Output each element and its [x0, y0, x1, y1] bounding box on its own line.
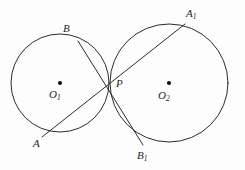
point-label-a1-subscript: 1 [193, 12, 197, 21]
center-label-o2-text: O [158, 89, 166, 101]
center-label-o2: O2 [158, 90, 170, 102]
point-label-a: A [33, 138, 40, 150]
point-label-b1-subscript: 1 [144, 154, 148, 163]
center-label-o1: O1 [49, 89, 61, 101]
point-label-b-text: B [63, 22, 70, 34]
point-label-b1-text: B [137, 149, 144, 161]
center-dot-o2 [167, 81, 171, 85]
geometry-figure: B A A1 B1 P O1 O2 [0, 0, 245, 170]
point-label-b1: B1 [137, 150, 147, 162]
point-label-a-text: A [33, 137, 40, 149]
point-label-b: B [63, 23, 70, 35]
point-label-p-text: P [116, 77, 123, 89]
secant-line-a-a1 [42, 24, 185, 137]
point-label-p: P [116, 78, 123, 90]
point-label-a1: A1 [186, 8, 196, 20]
center-label-o2-subscript: 2 [166, 94, 170, 103]
secant-line-b-b1 [78, 41, 143, 145]
center-dot-o1 [58, 81, 62, 85]
center-label-o1-text: O [49, 88, 57, 100]
center-label-o1-subscript: 1 [57, 93, 61, 102]
point-label-a1-text: A [186, 7, 193, 19]
